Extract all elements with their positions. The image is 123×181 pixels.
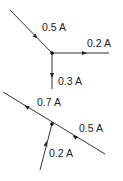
current-label: 0.7 A bbox=[37, 96, 61, 108]
arrow-icon bbox=[50, 73, 54, 78]
junction-top: 0.5 A 0.2 A 0.3 A bbox=[10, 10, 111, 89]
current-label: 0.2 A bbox=[87, 37, 111, 49]
arrow-icon bbox=[82, 51, 87, 55]
junction-node bbox=[50, 51, 54, 55]
kirchhoff-junction-diagrams: 0.5 A 0.2 A 0.3 A 0.7 A 0.5 A 0.2 A bbox=[0, 0, 123, 181]
junction-node bbox=[50, 122, 54, 126]
current-label: 0.2 A bbox=[49, 147, 73, 159]
current-label: 0.3 A bbox=[58, 75, 82, 87]
current-label: 0.5 A bbox=[79, 122, 103, 134]
current-label: 0.5 A bbox=[42, 21, 66, 33]
junction-bottom: 0.7 A 0.5 A 0.2 A bbox=[3, 92, 105, 170]
